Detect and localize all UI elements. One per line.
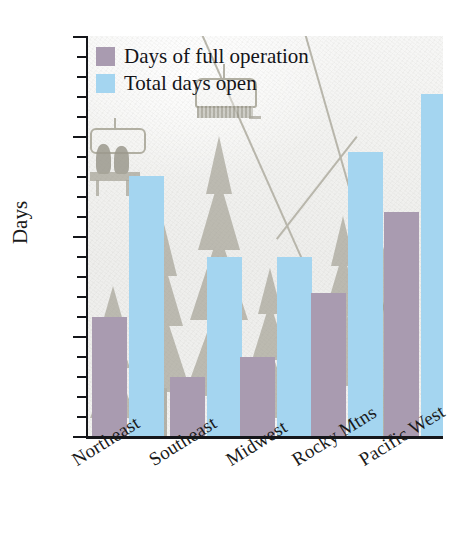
y-tick-minor-70 (77, 296, 86, 298)
legend-item-full-operation: Days of full operation (96, 44, 309, 69)
bar-northeast-total-open (129, 176, 164, 437)
y-tick-minor-20 (77, 396, 86, 398)
y-tick-major-0 (73, 436, 86, 438)
y-tick-minor-40 (77, 356, 86, 358)
y-tick-major-200 (73, 36, 86, 38)
y-tick-minor-110 (77, 216, 86, 218)
y-axis-title: Days (8, 183, 33, 263)
legend-label-total-open: Total days open (124, 73, 257, 94)
y-tick-minor-90 (77, 256, 86, 258)
chart-legend: Days of full operation Total days open (96, 44, 309, 96)
bar-pacific-west-total-open (421, 94, 443, 437)
y-tick-minor-30 (77, 376, 86, 378)
y-tick-minor-170 (77, 96, 86, 98)
plot-area: Days of full operation Total days open (88, 36, 443, 437)
y-tick-minor-190 (77, 56, 86, 58)
purple-swatch-icon (96, 47, 115, 66)
bar-southeast-total-open (207, 257, 242, 437)
y-tick-minor-140 (77, 156, 86, 158)
y-tick-minor-10 (77, 416, 86, 418)
y-tick-major-150 (73, 136, 86, 138)
bar-rocky-mtns-total-open (348, 152, 383, 437)
y-tick-minor-180 (77, 76, 86, 78)
y-tick-minor-130 (77, 176, 86, 178)
y-tick-major-100 (73, 236, 86, 238)
y-tick-minor-160 (77, 116, 86, 118)
y-tick-minor-80 (77, 276, 86, 278)
bar-midwest-total-open (277, 257, 312, 437)
y-tick-minor-120 (77, 196, 86, 198)
bar-pacific-west-full-operation (384, 212, 419, 437)
y-tick-major-50 (73, 336, 86, 338)
bar-rocky-mtns-full-operation (311, 293, 346, 437)
blue-swatch-icon (96, 74, 115, 93)
legend-item-total-open: Total days open (96, 71, 309, 96)
y-axis-line (86, 36, 88, 438)
y-tick-minor-60 (77, 316, 86, 318)
ski-season-days-bar-chart: Days of full operation Total days open 2… (0, 0, 449, 537)
legend-label-full-operation: Days of full operation (124, 46, 309, 67)
bar-group-container (88, 36, 443, 437)
